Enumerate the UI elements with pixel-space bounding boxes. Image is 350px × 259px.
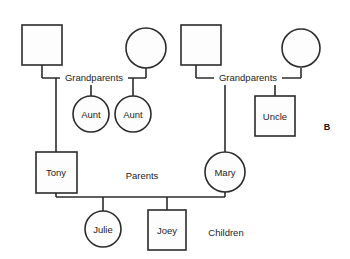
node-grandfather-right[interactable] [181, 25, 221, 65]
parents-label: Parents [126, 170, 159, 181]
node-julie-label: Julie [93, 224, 113, 235]
genogram-figure: Aunt Aunt Uncle Tony Mary Julie Joey Gra… [0, 0, 350, 259]
grandparents-left-label: Grandparents [65, 72, 123, 83]
node-mary-label: Mary [214, 167, 235, 178]
children-label: Children [208, 227, 243, 238]
node-tony-label: Tony [46, 167, 66, 178]
panel-letter-label: B [324, 122, 331, 132]
node-uncle-label: Uncle [263, 111, 287, 122]
node-aunt-two-label: Aunt [123, 109, 143, 120]
grandparents-right-label: Grandparents [219, 72, 277, 83]
node-joey-label: Joey [157, 225, 177, 236]
parents-children-connectors [56, 192, 225, 211]
node-aunt-one-label: Aunt [81, 109, 101, 120]
node-grandmother-left[interactable] [126, 28, 166, 68]
node-grandmother-right[interactable] [282, 29, 320, 67]
genogram-canvas: Aunt Aunt Uncle Tony Mary Julie Joey Gra… [0, 0, 350, 259]
node-grandfather-left[interactable] [22, 25, 62, 65]
